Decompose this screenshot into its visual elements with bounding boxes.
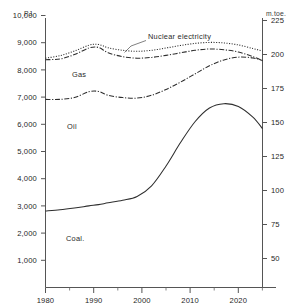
left-tick-label: 7,000: [17, 93, 37, 102]
right-tick-label: 175: [271, 84, 284, 93]
left-tick-label: 4,000: [17, 174, 37, 183]
right-tick-label: 200: [271, 50, 284, 59]
x-tick-label: 2010: [181, 296, 199, 305]
left-tick-label: 2,000: [17, 229, 37, 238]
x-tick-label: 2020: [230, 296, 248, 305]
x-axis-ticks: [46, 288, 263, 294]
left-axis-tick-labels: 1,000 2,000 3,000 4,000 5,000 6,000 7,00…: [13, 11, 37, 265]
left-tick-label: 5,000: [17, 147, 37, 156]
left-tick-label: 10,000: [13, 11, 37, 20]
right-tick-label: 225: [271, 16, 284, 25]
series-label-oil: Oil: [67, 122, 77, 131]
series-label-nuclear-electricity: Nuclear electricity: [148, 32, 211, 41]
chart-canvas: PJ m.toe. 1,000 2,000 3,000 4,000 5,000 …: [0, 0, 299, 308]
x-tick-label: 1990: [85, 296, 103, 305]
right-tick-label: 125: [271, 152, 284, 161]
energy-consumption-chart: PJ m.toe. 1,000 2,000 3,000 4,000 5,000 …: [0, 0, 299, 308]
right-tick-label: 100: [271, 186, 284, 195]
left-tick-label: 1,000: [17, 256, 37, 265]
series-label-gas: Gas: [72, 70, 86, 79]
x-tick-label: 1980: [37, 296, 55, 305]
right-tick-label: 75: [271, 220, 280, 229]
nuclear-label-leader-line: [125, 41, 147, 53]
annotation-layer: Nuclear electricity Gas Oil Coal.: [66, 32, 211, 243]
right-axis-ticks: [263, 21, 268, 259]
left-tick-label: 3,000: [17, 202, 37, 211]
left-tick-label: 9,000: [17, 38, 37, 47]
series-label-coal: Coal.: [66, 234, 85, 243]
x-tick-label: 2000: [133, 296, 151, 305]
x-axis-tick-labels: 1980 1990 2000 2010 2020: [37, 296, 247, 305]
left-axis-ticks: [41, 16, 46, 261]
right-tick-label: 150: [271, 118, 284, 127]
right-axis-tick-labels: 50 75 100 125 150 175 200 225: [271, 16, 284, 263]
left-tick-label: 8,000: [17, 66, 37, 75]
series-line-coal: [46, 104, 263, 211]
right-tick-label: 50: [271, 254, 280, 263]
series-layer: [46, 42, 263, 211]
left-tick-label: 6,000: [17, 120, 37, 129]
